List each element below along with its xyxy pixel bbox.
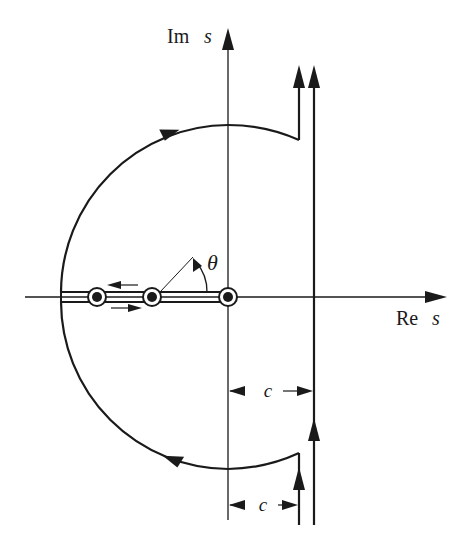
dimension-c-upper-label: c	[264, 380, 273, 401]
imaginary-axis-arrow-icon	[222, 28, 234, 50]
slit-left-arrow-icon	[107, 281, 121, 289]
inner-vertical-up-arrow-icon	[293, 65, 305, 88]
contour-diagram: c c Im s Re s θ	[0, 0, 467, 550]
upper-arc	[61, 125, 299, 292]
imaginary-axis-label: Im	[167, 25, 190, 47]
inner-vertical-upper	[293, 65, 305, 140]
real-axis-var: s	[432, 307, 440, 329]
angle-arrow-icon	[193, 258, 202, 272]
lower-arc-direction-arrow-icon	[161, 452, 184, 469]
pole-origin	[219, 288, 237, 306]
slit-right-arrow-icon	[128, 304, 142, 312]
real-axis-arrow-icon	[425, 291, 447, 303]
imaginary-axis	[222, 28, 234, 520]
inner-lower-up-arrow-icon	[293, 467, 305, 490]
dimension-c-lower-label: c	[259, 494, 268, 515]
pole-2	[143, 288, 161, 306]
pole-1	[88, 288, 106, 306]
dimension-c-upper: c	[229, 380, 313, 401]
inner-vertical-lower	[293, 453, 305, 525]
angle-theta	[160, 257, 207, 292]
theta-label: θ	[207, 250, 218, 275]
dimension-c-lower: c	[229, 494, 298, 515]
imaginary-axis-var: s	[204, 25, 212, 47]
bromwich-top-arrow-icon	[308, 65, 320, 88]
bromwich-mid-arrow-icon	[308, 418, 320, 441]
real-axis-label: Re	[396, 307, 418, 329]
bromwich-line	[308, 65, 320, 525]
